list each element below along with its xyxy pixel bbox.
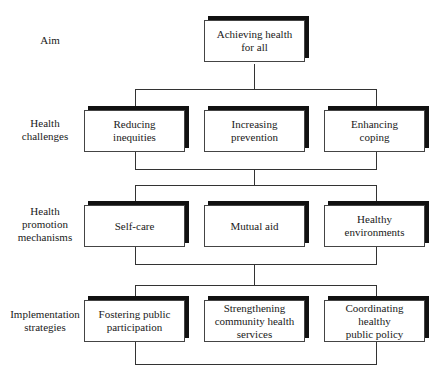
connector: [135, 152, 136, 169]
node-self-care: Self-care: [84, 205, 185, 247]
level-label-mechanisms: Health promotion mechanisms: [10, 205, 80, 244]
connector: [135, 364, 377, 365]
connector: [135, 185, 377, 186]
level-label-strategies: Implementation strategies: [6, 308, 84, 334]
connector: [376, 247, 377, 264]
node-healthy-environments: Healthy environments: [324, 205, 425, 247]
node-strengthening-services: Strengthening community health services: [204, 300, 305, 342]
connector: [254, 264, 255, 285]
connector: [376, 152, 377, 169]
connector: [135, 285, 377, 286]
level-label-challenges: Health challenges: [10, 117, 80, 143]
node-enhancing-coping: Enhancing coping: [324, 110, 425, 152]
node-increasing-prevention: Increasing prevention: [204, 110, 305, 152]
connector: [254, 169, 255, 185]
connector: [254, 64, 255, 89]
node-coordinating-policy: Coordinating healthy public policy: [324, 300, 425, 342]
connector: [135, 264, 377, 265]
connector: [135, 89, 377, 90]
level-label-aim: Aim: [20, 34, 80, 47]
node-reducing-inequities: Reducing inequities: [84, 110, 185, 152]
connector: [135, 247, 136, 264]
connector: [135, 342, 136, 364]
connector: [135, 169, 377, 170]
node-fostering-participation: Fostering public participation: [84, 300, 185, 342]
node-mutual-aid: Mutual aid: [204, 205, 305, 247]
connector: [376, 342, 377, 364]
node-achieving-health: Achieving health for all: [204, 20, 305, 62]
